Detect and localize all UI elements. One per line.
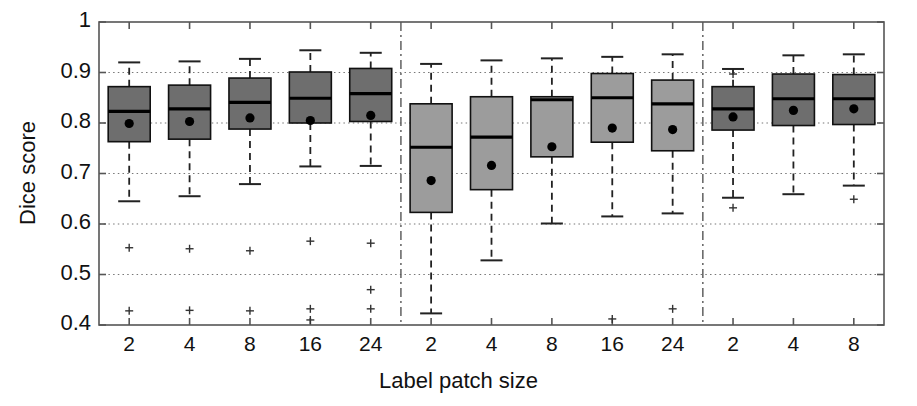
mean-dot (668, 125, 677, 134)
mean-dot (245, 113, 254, 122)
mean-dot (789, 106, 798, 115)
y-tick-label: 0.4 (33, 310, 91, 336)
box-body[interactable] (410, 104, 452, 213)
y-tick-label: 0.7 (33, 159, 91, 185)
y-tick-label: 0.5 (33, 260, 91, 286)
x-tick-label: 4 (763, 332, 823, 356)
box-body[interactable] (169, 85, 211, 139)
mean-dot (427, 176, 436, 185)
x-tick-label: 24 (643, 332, 703, 356)
x-tick-label: 2 (99, 332, 159, 356)
mean-dot (125, 119, 134, 128)
box-body[interactable] (471, 97, 513, 190)
x-tick-label: 16 (582, 332, 642, 356)
box-body[interactable] (108, 87, 150, 142)
mean-dot (366, 111, 375, 120)
x-tick-label: 4 (160, 332, 220, 356)
x-tick-label: 16 (280, 332, 340, 356)
x-tick-label: 24 (341, 332, 401, 356)
mean-dot (487, 161, 496, 170)
mean-dot (608, 123, 617, 132)
y-tick-label: 0.9 (33, 58, 91, 84)
x-tick-label: 2 (401, 332, 461, 356)
x-tick-label: 8 (220, 332, 280, 356)
y-tick-label: 1 (33, 7, 91, 33)
y-tick-label: 0.6 (33, 209, 91, 235)
mean-dot (547, 142, 556, 151)
x-tick-label: 2 (703, 332, 763, 356)
mean-dot (849, 104, 858, 113)
mean-dot (185, 117, 194, 126)
box-body[interactable] (652, 80, 694, 151)
mean-dot (728, 112, 737, 121)
y-tick-label: 0.8 (33, 108, 91, 134)
mean-dot (306, 116, 315, 125)
boxplot-figure: Dice score Label patch size 0.40.50.60.7… (0, 0, 917, 406)
x-tick-label: 8 (824, 332, 884, 356)
x-tick-label: 8 (522, 332, 582, 356)
x-tick-label: 4 (462, 332, 522, 356)
